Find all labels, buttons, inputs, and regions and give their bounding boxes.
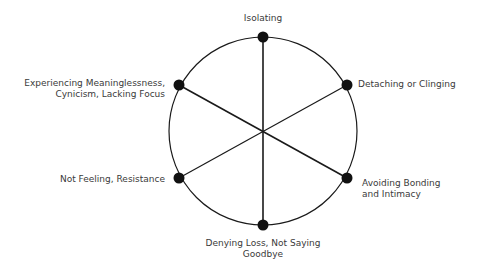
label-left-upper-line1: Experiencing Meaninglessness, (0, 78, 165, 89)
node-top (258, 32, 269, 43)
label-right-lower-line2: and Intimacy (362, 189, 440, 200)
label-bottom-line2: Goodbye (188, 249, 338, 260)
node-right-lower (342, 173, 353, 184)
label-left-upper: Experiencing Meaninglessness, Cynicism, … (0, 78, 165, 100)
label-right-lower: Avoiding Bonding and Intimacy (362, 178, 440, 200)
node-left-upper (174, 80, 185, 91)
label-right-upper: Detaching or Clinging (358, 79, 456, 90)
label-left-lower-line1: Not Feeling, Resistance (10, 174, 165, 185)
label-right-upper-line1: Detaching or Clinging (358, 79, 456, 90)
node-left-lower (174, 173, 185, 184)
label-left-lower: Not Feeling, Resistance (10, 174, 165, 185)
label-right-lower-line1: Avoiding Bonding (362, 178, 440, 189)
label-top-line1: Isolating (213, 13, 313, 24)
label-bottom: Denying Loss, Not Saying Goodbye (188, 238, 338, 260)
label-top: Isolating (213, 13, 313, 24)
node-right-upper (342, 80, 353, 91)
node-bottom (258, 220, 269, 231)
label-bottom-line1: Denying Loss, Not Saying (188, 238, 338, 249)
label-left-upper-line2: Cynicism, Lacking Focus (0, 89, 165, 100)
wheel-diagram (0, 0, 483, 267)
